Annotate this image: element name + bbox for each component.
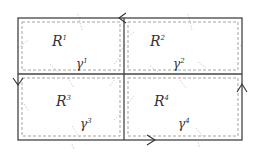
- region-decomposition-diagram: R1 R2 R3 R4 γ1 γ2 γ3 γ4: [0, 0, 260, 154]
- region-labels: R1 R2 R3 R4: [51, 33, 169, 109]
- curve-label-gamma4: γ4: [178, 117, 190, 131]
- curve-label-gamma3: γ3: [80, 117, 92, 131]
- region-label-r4: R4: [153, 93, 169, 109]
- region-label-r2: R2: [149, 33, 166, 49]
- curve-labels: γ1 γ2 γ3 γ4: [76, 57, 190, 131]
- gamma-1-curve: [22, 22, 120, 70]
- gamma-3-curve: [22, 78, 120, 136]
- curve-label-gamma1: γ1: [76, 57, 88, 71]
- region-label-r1: R1: [51, 33, 67, 49]
- curve-label-gamma2: γ2: [173, 57, 185, 71]
- region-label-r3: R3: [55, 93, 72, 109]
